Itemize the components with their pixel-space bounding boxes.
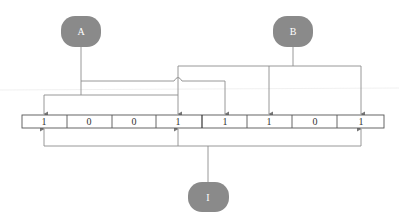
bit-vector-diagram: 1 0 0 1 1 1 0 1 A B I [0,0,399,224]
background-rule [0,88,399,90]
node-i: I [188,182,229,212]
connector-a [44,47,225,114]
node-i-label: I [206,192,209,203]
register-outline [22,115,384,128]
bit-cell-4: 1 [176,116,181,127]
node-b-label: B [290,26,297,37]
bit-register: 1 0 0 1 1 1 0 1 [22,115,384,128]
node-a: A [61,16,101,47]
bit-cell-6: 1 [267,116,272,127]
connector-i [44,129,361,182]
bit-cell-1: 1 [42,116,47,127]
bit-cell-5: 1 [223,116,228,127]
bit-cell-7: 0 [313,116,318,127]
bit-cell-3: 0 [132,116,137,127]
connector-b [178,47,361,114]
node-b: B [273,16,313,47]
bit-cell-2: 0 [87,116,92,127]
bit-cell-8: 1 [359,116,364,127]
node-a-label: A [77,26,85,37]
